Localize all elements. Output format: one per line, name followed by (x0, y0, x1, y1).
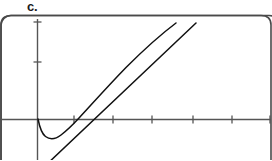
screen-frame (1, 16, 272, 161)
graph-svg (0, 14, 272, 160)
part-label: c. (27, 0, 37, 15)
calculator-screen (0, 14, 272, 160)
figure-container: c. (0, 0, 272, 160)
